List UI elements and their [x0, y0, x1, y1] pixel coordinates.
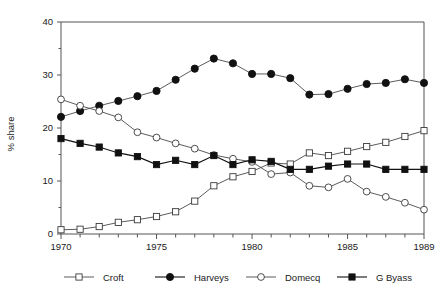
data-point — [192, 198, 198, 204]
data-point — [268, 70, 275, 77]
data-point — [172, 140, 179, 147]
data-point — [153, 134, 160, 141]
data-point — [344, 85, 351, 92]
data-point — [153, 213, 159, 219]
x-tick-label: 1989 — [413, 241, 434, 252]
data-point — [364, 143, 370, 149]
data-point — [344, 148, 350, 154]
x-tick-label: 1985 — [337, 241, 358, 252]
chart-legend: CroftHarveysDomecqG Byass — [64, 272, 412, 283]
data-point — [401, 76, 408, 83]
data-point — [325, 90, 332, 97]
legend-item-croft[interactable]: Croft — [64, 272, 124, 283]
data-point — [420, 79, 427, 86]
data-point — [211, 183, 217, 189]
y-tick-label: 40 — [42, 16, 53, 27]
legend-label: G Byass — [376, 272, 412, 283]
data-point — [402, 166, 408, 172]
legend-item-domecq[interactable]: Domecq — [246, 272, 320, 283]
data-point — [173, 209, 179, 215]
data-point — [325, 163, 331, 169]
data-point — [306, 166, 312, 172]
legend-marker — [76, 274, 82, 280]
series-g-byass — [58, 136, 427, 173]
chart-series-group — [57, 55, 427, 233]
data-point — [287, 75, 294, 82]
data-point — [382, 79, 389, 86]
series-domecq — [58, 96, 428, 213]
data-point — [306, 150, 312, 156]
data-point — [383, 139, 389, 145]
data-point — [153, 87, 160, 94]
chart-axes — [61, 22, 424, 234]
data-point — [230, 161, 236, 167]
data-point — [134, 93, 141, 100]
data-point — [421, 128, 427, 134]
data-point — [77, 102, 84, 109]
plot-frame — [61, 22, 424, 234]
y-axis-ticks: 010203040 — [42, 16, 61, 239]
data-point — [383, 166, 389, 172]
data-point — [96, 223, 102, 229]
data-point — [211, 152, 217, 158]
data-point — [172, 76, 179, 83]
x-axis-ticks: 19701975198019851989 — [50, 234, 434, 252]
y-tick-label: 0 — [48, 228, 53, 239]
data-point — [401, 199, 408, 206]
data-point — [344, 175, 351, 182]
data-point — [77, 226, 83, 232]
legend-item-g-byass[interactable]: G Byass — [337, 272, 412, 283]
legend-item-harveys[interactable]: Harveys — [155, 272, 229, 283]
series-croft — [58, 128, 427, 233]
data-point — [77, 140, 83, 146]
data-point — [230, 174, 236, 180]
data-point — [402, 133, 408, 139]
y-tick-label: 30 — [42, 69, 53, 80]
x-tick-label: 1980 — [241, 241, 262, 252]
legend-marker — [166, 273, 173, 280]
data-point — [363, 188, 370, 195]
data-point — [115, 150, 121, 156]
data-point — [364, 161, 370, 167]
data-point — [421, 206, 428, 213]
line-chart: 010203040 19701975198019851989 % share C… — [0, 0, 446, 298]
legend-label: Harveys — [194, 272, 229, 283]
data-point — [173, 157, 179, 163]
data-point — [58, 96, 65, 103]
data-point — [192, 161, 198, 167]
legend-label: Croft — [103, 272, 124, 283]
data-point — [153, 161, 159, 167]
data-point — [96, 108, 103, 115]
y-tick-label: 10 — [42, 175, 53, 186]
legend-marker — [258, 274, 265, 281]
x-tick-label: 1975 — [146, 241, 167, 252]
data-point — [249, 168, 255, 174]
data-point — [306, 182, 313, 189]
data-point — [421, 166, 427, 172]
chart-container: 010203040 19701975198019851989 % share C… — [0, 0, 446, 298]
data-point — [115, 114, 122, 121]
data-point — [134, 129, 141, 136]
data-point — [344, 161, 350, 167]
x-tick-label: 1970 — [50, 241, 71, 252]
data-point — [325, 152, 331, 158]
data-point — [229, 60, 236, 67]
data-point — [363, 80, 370, 87]
data-point — [58, 136, 64, 142]
data-point — [325, 184, 332, 191]
data-point — [249, 157, 255, 163]
data-point — [96, 144, 102, 150]
data-point — [306, 91, 313, 98]
data-point — [115, 219, 121, 225]
legend-label: Domecq — [285, 272, 320, 283]
legend-marker — [349, 274, 355, 280]
data-point — [210, 55, 217, 62]
data-point — [382, 194, 389, 201]
data-point — [134, 154, 140, 160]
data-point — [115, 97, 122, 104]
y-tick-label: 20 — [42, 122, 53, 133]
data-point — [268, 158, 274, 164]
data-point — [134, 217, 140, 223]
series-harveys — [57, 55, 427, 121]
data-point — [58, 227, 64, 233]
